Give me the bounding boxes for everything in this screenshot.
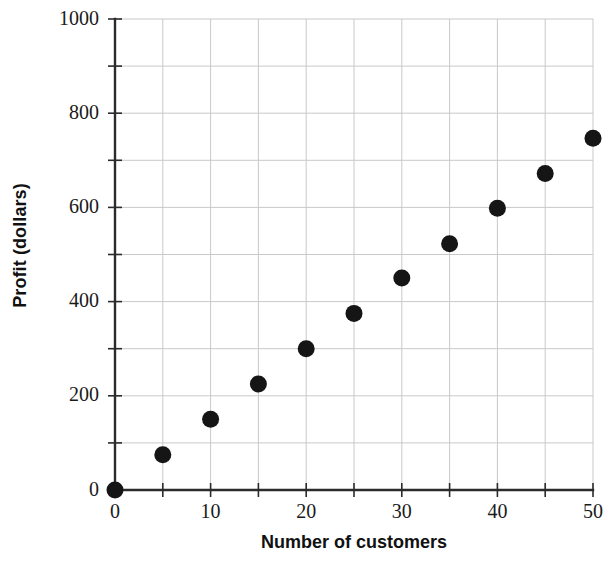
plot-canvas: 0200400600800100001020304050 xyxy=(0,0,609,567)
data-point xyxy=(107,482,124,499)
data-point xyxy=(393,270,410,287)
x-tick-label: 50 xyxy=(583,500,603,522)
x-tick-label: 0 xyxy=(110,500,120,522)
y-tick-label: 1000 xyxy=(59,7,99,29)
data-point xyxy=(346,305,363,322)
data-point xyxy=(154,446,171,463)
y-tick-label: 200 xyxy=(69,383,99,405)
data-point xyxy=(585,130,602,147)
x-tick-label: 20 xyxy=(296,500,316,522)
tick-labels-group: 0200400600800100001020304050 xyxy=(59,7,603,522)
data-point xyxy=(537,165,554,182)
y-tick-label: 800 xyxy=(69,101,99,123)
x-tick-label: 30 xyxy=(392,500,412,522)
y-tick-label: 400 xyxy=(69,289,99,311)
x-tick-label: 40 xyxy=(487,500,507,522)
scatter-plot-figure: Profit (dollars) 02004006008001000010203… xyxy=(0,0,609,567)
y-tick-label: 0 xyxy=(89,478,99,500)
x-axis-title: Number of customers xyxy=(115,532,593,553)
x-tick-label: 10 xyxy=(201,500,221,522)
data-point xyxy=(489,200,506,217)
data-point xyxy=(202,411,219,428)
y-tick-label: 600 xyxy=(69,195,99,217)
data-point xyxy=(298,340,315,357)
data-point xyxy=(441,235,458,252)
gridlines-group xyxy=(115,19,593,490)
data-point xyxy=(250,376,267,393)
tick-marks-group xyxy=(108,19,593,497)
